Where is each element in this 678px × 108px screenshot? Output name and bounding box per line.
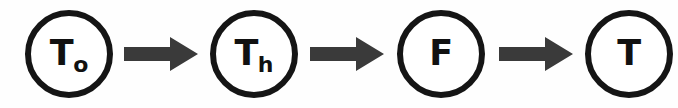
node-t[interactable]: T bbox=[585, 10, 673, 98]
node-t-o-label: To bbox=[50, 36, 89, 71]
flow-diagram: To Th F T bbox=[0, 0, 678, 108]
node-f[interactable]: F bbox=[397, 10, 485, 98]
node-t-h-label-subscript: h bbox=[258, 52, 274, 77]
arrow-node2-to-node3 bbox=[310, 37, 384, 71]
node-f-label: F bbox=[429, 36, 452, 71]
node-t-h-label: Th bbox=[234, 36, 273, 71]
node-t-o[interactable]: To bbox=[25, 10, 113, 98]
node-t-label-main: T bbox=[617, 33, 640, 73]
flow-chain: To Th F T bbox=[0, 0, 678, 108]
node-t-o-label-subscript: o bbox=[73, 52, 88, 77]
node-t-label: T bbox=[617, 36, 640, 71]
node-f-label-main: F bbox=[429, 33, 452, 73]
node-t-o-label-main: T bbox=[50, 33, 73, 73]
arrow-node3-to-node4 bbox=[499, 37, 573, 71]
node-t-h-label-main: T bbox=[234, 33, 257, 73]
arrow-node1-to-node2 bbox=[124, 37, 198, 71]
node-t-h[interactable]: Th bbox=[210, 10, 298, 98]
